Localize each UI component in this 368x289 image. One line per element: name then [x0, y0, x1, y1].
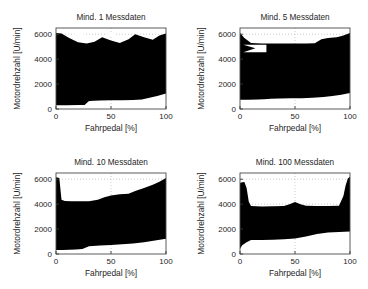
y-tick-label: 2000: [34, 225, 52, 234]
panel-min-1: 0200040006000050100Mind. 1 MessdatenFahr…: [0, 0, 184, 144]
y-tick-label: 2000: [218, 80, 236, 89]
y-tick-label: 4000: [34, 200, 52, 209]
y-tick-label: 4000: [34, 55, 52, 64]
panel-title: Mind. 100 Messdaten: [256, 158, 335, 167]
x-tick-label: 0: [238, 112, 243, 121]
x-tick-label: 0: [54, 257, 59, 266]
x-axis-label: Fahrpedal [%]: [269, 123, 321, 133]
x-tick-label: 50: [291, 257, 300, 266]
panel-min-100: 0200040006000050100Mind. 100 MessdatenFa…: [184, 145, 368, 289]
y-axis-label: Motordrehzahl [U/min]: [196, 172, 206, 254]
x-tick-label: 100: [343, 112, 357, 121]
x-axis-label: Fahrpedal [%]: [85, 268, 137, 278]
figure-root: 0200040006000050100Mind. 1 MessdatenFahr…: [0, 0, 368, 289]
plot-canvas: 0200040006000050100Mind. 5 MessdatenFahr…: [184, 0, 368, 144]
x-axis-label: Fahrpedal [%]: [85, 123, 137, 133]
y-axis-label: Motordrehzahl [U/min]: [12, 172, 22, 254]
x-tick-label: 50: [107, 257, 116, 266]
x-axis-label: Fahrpedal [%]: [269, 268, 321, 278]
y-axis-label: Motordrehzahl [U/min]: [12, 27, 22, 109]
x-tick-label: 100: [159, 257, 173, 266]
y-axis-label: Motordrehzahl [U/min]: [196, 27, 206, 109]
panel-min-5: 0200040006000050100Mind. 5 MessdatenFahr…: [184, 0, 368, 144]
y-tick-label: 0: [232, 250, 237, 259]
x-tick-label: 50: [107, 112, 116, 121]
x-tick-label: 0: [238, 257, 243, 266]
y-tick-label: 6000: [218, 175, 236, 184]
panel-min-10: 0200040006000050100Mind. 10 MessdatenFah…: [0, 145, 184, 289]
x-tick-label: 100: [343, 257, 357, 266]
y-tick-label: 2000: [218, 225, 236, 234]
y-tick-label: 6000: [34, 30, 52, 39]
y-tick-label: 6000: [218, 30, 236, 39]
y-tick-label: 0: [48, 250, 53, 259]
panel-title: Mind. 5 Messdaten: [260, 13, 330, 22]
data-band: [56, 33, 166, 105]
y-tick-label: 0: [232, 105, 237, 114]
plot-canvas: 0200040006000050100Mind. 100 MessdatenFa…: [184, 145, 368, 289]
y-tick-label: 4000: [218, 200, 236, 209]
plot-canvas: 0200040006000050100Mind. 1 MessdatenFahr…: [0, 0, 184, 144]
x-tick-label: 0: [54, 112, 59, 121]
panel-title: Mind. 1 Messdaten: [76, 13, 146, 22]
plot-canvas: 0200040006000050100Mind. 10 MessdatenFah…: [0, 145, 184, 289]
x-tick-label: 50: [291, 112, 300, 121]
x-tick-label: 100: [159, 112, 173, 121]
panel-title: Mind. 10 Messdaten: [74, 158, 148, 167]
y-tick-label: 0: [48, 105, 53, 114]
y-tick-label: 6000: [34, 175, 52, 184]
y-tick-label: 4000: [218, 55, 236, 64]
y-tick-label: 2000: [34, 80, 52, 89]
